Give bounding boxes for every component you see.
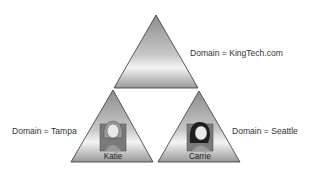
root-domain-label: Domain = KingTech.com [190, 47, 283, 58]
carrie-user-name: Carrie [182, 151, 218, 161]
root-domain-triangle [114, 15, 198, 88]
katie-user-name: Katie [95, 151, 131, 161]
domain-tree-diagram: Domain = KingTech.com Domain = Tampa Dom… [0, 0, 316, 177]
tampa-domain-label: Domain = Tampa [12, 125, 77, 136]
carrie-user-icon [187, 122, 213, 151]
seattle-domain-label: Domain = Seattle [232, 125, 298, 136]
katie-user-icon [100, 121, 126, 151]
diagram-shapes [0, 0, 316, 177]
